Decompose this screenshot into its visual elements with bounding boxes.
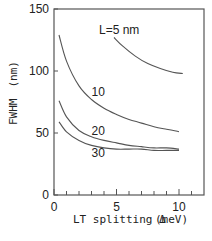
y-tick-label: 0 [42, 188, 49, 202]
data-curves [59, 35, 183, 150]
curve-label: 10 [92, 85, 106, 99]
x-tick-label: 0 [51, 200, 58, 214]
x-axis-unit: (meV) [155, 213, 188, 226]
plot-frame [54, 9, 204, 195]
curve-30 [59, 122, 179, 151]
x-tick-label: 5 [113, 200, 120, 214]
y-tick-label: 100 [29, 64, 49, 78]
fwhm-vs-lt-splitting-chart: 0501001500510 L=5 nm102030 LT splitting … [0, 0, 212, 241]
y-tick-label: 50 [36, 126, 50, 140]
curve-label: 20 [92, 124, 106, 138]
curve-label: L=5 nm [99, 23, 139, 37]
y-axis-label: FWHM (nm) [7, 61, 20, 125]
curve-20 [59, 101, 179, 149]
x-tick-label: 10 [172, 200, 186, 214]
curve-l-5-nm [114, 38, 183, 74]
curve-10 [59, 35, 179, 132]
x-axis-label: LT splitting Δ [73, 213, 166, 226]
plot-area-border [54, 9, 204, 195]
y-tick-label: 150 [29, 2, 49, 16]
curve-label: 30 [92, 146, 106, 160]
